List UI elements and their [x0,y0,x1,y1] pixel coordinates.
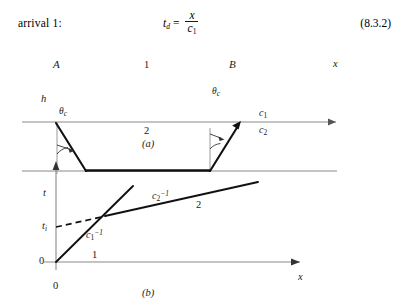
refracted-arrival-dashed-extension [56,216,106,227]
equation-number: (8.3.2) [360,17,391,29]
equation-row: arrival 1: td = x c1 (8.3.2) [0,8,405,42]
equation-label: arrival 1: [18,17,62,29]
label-slope-refracted: c2−1 [152,190,169,203]
equation-fraction: x c1 [185,9,198,36]
label-t-axis: t [43,188,46,199]
angle-pointer-right-arrowhead [218,137,224,142]
label-layer-upper: 1 [144,60,149,71]
equation-formula: td = x c1 [163,10,198,37]
label-origin-below: 0 [53,281,58,292]
angle-arc-right [210,144,221,150]
label-intercept-time: ti [42,221,47,232]
label-critical-angle-left: θc [59,107,67,117]
equation-equals: = [173,17,180,29]
label-point-b: B [229,59,236,70]
t-axis-arrowhead [53,161,60,170]
x-axis-arrowhead-b [291,259,300,266]
caption-figure-a: (a) [142,139,154,150]
figure-b-drawing [0,158,405,288]
caption-figure-b: (b) [142,288,154,299]
refracted-arrival-line [105,182,258,216]
equation-td-symbol: td [163,17,170,31]
label-branch-direct: 1 [92,250,97,261]
t-axis-group [53,161,60,270]
label-origin-left: 0 [39,256,44,267]
surface-line-group [22,119,336,126]
label-branch-refracted: 2 [196,200,201,211]
label-depth-h: h [41,94,46,105]
x-axis-arrowhead-a [328,119,336,126]
fraction-denominator: c1 [186,22,199,36]
label-slope-direct: c1−1 [86,229,103,242]
label-velocity-upper: c1 [259,108,267,119]
label-x-axis-a: x [333,59,338,70]
label-layer-lower: 2 [144,126,149,137]
label-point-a: A [53,59,60,70]
figure-page: arrival 1: td = x c1 (8.3.2) [0,0,405,301]
label-critical-angle-right: θc [212,87,220,97]
label-x-axis-b: x [298,272,303,283]
fraction-numerator: x [187,9,196,21]
label-velocity-lower: c2 [259,125,267,136]
x-axis-group-b [44,259,300,266]
